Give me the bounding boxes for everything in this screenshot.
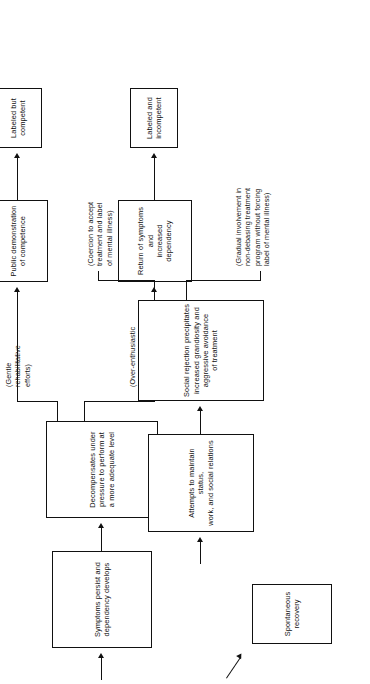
box-attempts-maintain-status: Attempts to maintain status, work, and s… [148,434,254,532]
connector-symptoms-to-decompensates [101,526,102,551]
connector-gentle-branch [17,290,18,392]
bracket-social-rejection-upper-tip [98,271,99,281]
flowchart-layer: Symptoms persist and dependency develops… [0,0,370,684]
bracket-social-rejection-upper [98,280,154,281]
connector-public-demo-out [17,156,18,200]
note-gradual-involvement: (Gradual involvement in non-debasing tre… [234,148,271,266]
connector-entry-attempts [200,540,201,564]
connector-attempts-to-social-rejection [200,409,201,434]
box-symptoms-persist: Symptoms persist and dependency develops [52,551,152,648]
box-spontaneous-recovery: Spontaneous recovery [252,584,332,644]
bracket-decompensates-upper-tip [17,392,18,402]
bracket-social-rejection-lower-tip [260,271,261,281]
arrowhead-entry-symptoms [98,653,104,658]
connector-return-symptoms-out [154,156,155,200]
bracket-social-rejection-lower-stub [186,280,187,300]
bracket-decompensates-upper [17,401,57,402]
bracket-decompensates-lower-stub [84,401,85,421]
bracket-social-rejection-lower [186,280,260,281]
note-gentle-rehabilitative-efforts: (Gentle rehabilitative efforts) [4,295,32,387]
bracket-decompensates-lower [84,401,154,402]
arrowhead-symptoms-to-decompensates [98,523,104,528]
arrowhead-public-demo-out [14,153,20,158]
bracket-decompensates-upper-stub [57,401,58,421]
arrowhead-attempts-to-social-rejection [197,406,203,411]
bracket-social-rejection-upper-stub [154,280,155,300]
note-coercion-to-accept-treatment: (Coercion to accept treatment and label … [86,162,114,266]
arrowhead-entry-spontaneous-recovery [236,652,244,660]
box-labeled-incompetent: Labeled and incompetent [130,88,178,148]
box-return-of-symptoms: Return of symptoms and increased depende… [118,200,192,282]
connector-entry-symptoms [101,656,102,680]
arrowhead-gentle-branch [14,287,20,292]
flowchart-canvas: Symptoms persist and dependency develops… [0,0,370,684]
arrowhead-entry-attempts [197,537,203,542]
connector-entry-spontaneous-recovery [226,656,241,678]
box-decompensates: Decompensates under pressure to perform … [46,421,158,518]
box-labeled-competent: Labeled but competent [0,88,42,148]
arrowhead-return-symptoms-out [151,153,157,158]
box-social-rejection: Social rejection precipitates increased … [138,300,264,401]
box-public-demonstration: Public demonstration of competence [0,200,48,282]
